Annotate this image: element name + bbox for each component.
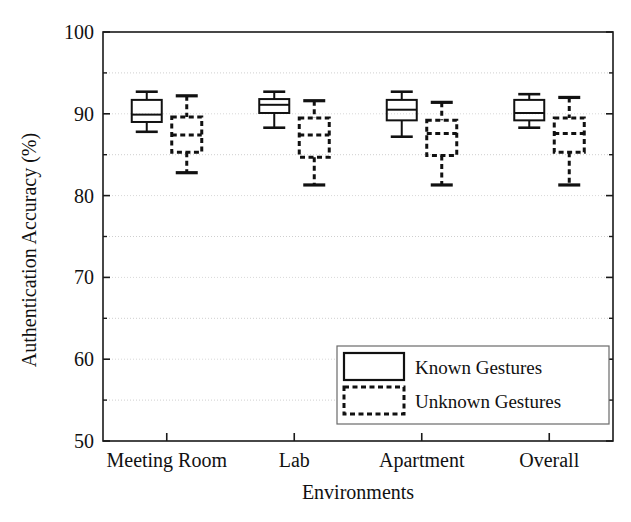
x-axis-title: Environments: [103, 481, 613, 504]
boxplot-unknown-lab: [299, 101, 329, 185]
box: [427, 120, 457, 155]
y-axis-tick-label: 90: [32, 104, 94, 124]
box: [554, 118, 584, 152]
boxplot-unknown-apartment: [427, 102, 457, 185]
box: [132, 100, 162, 122]
boxplot-known-meeting-room: [132, 92, 162, 132]
y-axis-tick-label: 80: [32, 186, 94, 206]
box: [514, 100, 544, 120]
y-axis-title: Authentication Accuracy (%): [12, 30, 46, 470]
y-axis-tick-label: 100: [32, 22, 94, 42]
box: [259, 99, 289, 113]
boxplot-unknown-overall: [554, 97, 584, 185]
y-axis-tick-label: 70: [32, 267, 94, 287]
legend-label-known-gestures: Known Gestures: [415, 358, 542, 377]
boxplot-unknown-meeting-room: [172, 96, 202, 173]
chart-canvas: [0, 0, 631, 522]
box-plot-figure: Authentication Accuracy (%) Environments…: [0, 0, 631, 522]
legend-key-unknown-gestures: [344, 387, 404, 414]
y-axis-tick-label: 60: [32, 349, 94, 369]
legend-key-known-gestures: [344, 353, 404, 380]
box: [299, 118, 329, 157]
y-axis-tick-label: 50: [32, 431, 94, 451]
legend-label-unknown-gestures: Unknown Gestures: [415, 392, 561, 411]
boxplot-known-overall: [514, 94, 544, 128]
x-axis-tick-label: Overall: [459, 450, 631, 470]
boxplot-known-lab: [259, 92, 289, 128]
